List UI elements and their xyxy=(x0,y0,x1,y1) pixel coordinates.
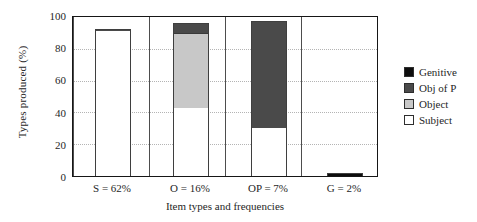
y-tick-label: 20 xyxy=(26,139,66,151)
y-tick-label: 100 xyxy=(26,10,66,22)
legend-label: Object xyxy=(419,98,448,110)
x-tick-label-g: G = 2% xyxy=(327,182,361,194)
legend-label: Genitive xyxy=(419,66,457,78)
legend-label: Obj of P xyxy=(419,82,456,94)
category-separator xyxy=(225,17,226,176)
category-separator xyxy=(301,17,302,176)
legend: Genitive Obj of P Object Subject xyxy=(404,64,457,128)
category-separator xyxy=(73,17,74,176)
plot-inner xyxy=(73,17,377,176)
plot-area xyxy=(72,16,378,177)
legend-swatch-icon xyxy=(404,67,414,77)
bar-segment-obj-of-p xyxy=(173,23,209,33)
bar-segment-subject xyxy=(251,128,287,176)
x-tick-label-o: O = 16% xyxy=(170,182,210,194)
bar-segment-subject xyxy=(173,108,209,176)
x-tick-label-s: S = 62% xyxy=(93,182,131,194)
legend-swatch-icon xyxy=(404,83,414,93)
y-tick-label: 0 xyxy=(26,171,66,183)
y-tick-label: 40 xyxy=(26,107,66,119)
x-axis-title: Item types and frequencies xyxy=(72,200,378,212)
y-tick-label: 60 xyxy=(26,74,66,86)
bar-o[interactable] xyxy=(173,23,209,176)
bar-segment-subject xyxy=(95,31,131,176)
legend-label: Subject xyxy=(419,114,452,126)
legend-item-obj-of-p[interactable]: Obj of P xyxy=(404,80,457,95)
category-separator xyxy=(149,17,150,176)
y-tick-label: 80 xyxy=(26,42,66,54)
bar-segment-obj-of-p xyxy=(251,21,287,127)
y-axis-title: Types produced (%) xyxy=(16,12,28,172)
bar-segment-object xyxy=(173,33,209,109)
legend-item-object[interactable]: Object xyxy=(404,96,457,111)
bar-op[interactable] xyxy=(251,21,287,176)
bar-segment-genitive xyxy=(327,173,363,176)
legend-item-subject[interactable]: Subject xyxy=(404,112,457,127)
x-tick-label-op: OP = 7% xyxy=(248,182,288,194)
legend-swatch-icon xyxy=(404,115,414,125)
bar-g[interactable] xyxy=(327,173,363,176)
legend-item-genitive[interactable]: Genitive xyxy=(404,64,457,79)
bar-s[interactable] xyxy=(95,29,131,176)
legend-swatch-icon xyxy=(404,99,414,109)
stacked-bar-chart-figure: Types produced (%) 100 80 60 40 20 0 S =… xyxy=(0,0,477,222)
